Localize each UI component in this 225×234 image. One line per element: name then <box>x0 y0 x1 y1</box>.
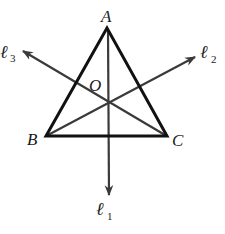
vertex-label-a: A <box>100 7 112 26</box>
svg-text:1: 1 <box>107 210 113 222</box>
svg-text:2: 2 <box>211 53 217 65</box>
vertex-label-c: C <box>172 131 184 150</box>
svg-text:3: 3 <box>10 52 16 64</box>
line-l1 <box>108 30 109 195</box>
line-label-l1: ℓ 1 <box>96 199 113 222</box>
diagram-canvas: A B C O ℓ 3 ℓ 2 ℓ 1 <box>0 0 225 234</box>
center-label-o: O <box>89 76 101 95</box>
vertex-label-b: B <box>27 130 38 149</box>
svg-text:ℓ: ℓ <box>0 42 8 62</box>
triangle-diagram: A B C O ℓ 3 ℓ 2 ℓ 1 <box>0 0 225 234</box>
line-label-l3: ℓ 3 <box>0 42 16 64</box>
line-label-l2: ℓ 2 <box>200 42 217 65</box>
svg-text:ℓ: ℓ <box>96 199 104 219</box>
svg-text:ℓ: ℓ <box>200 42 208 62</box>
